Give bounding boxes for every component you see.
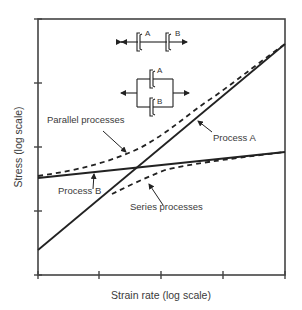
series-left-arrow-icon [121, 39, 127, 45]
x-axis-label: Strain rate (log scale) [111, 289, 211, 301]
series-icon-a-label: A [145, 29, 151, 38]
parallel-icon-a-label: A [157, 66, 163, 75]
process-a-label: Process A [213, 132, 256, 143]
parallel-dashpot-icon [121, 70, 189, 116]
parallel-left-arrow-icon [120, 90, 126, 96]
parallel-processes-label: Parallel processes [47, 114, 125, 125]
stress-strain-diagram: Parallel processes Process A Process B S… [0, 0, 302, 310]
process-a-arrow [198, 121, 212, 132]
parallel-arrow [103, 131, 126, 152]
series-processes-curve [112, 152, 285, 194]
process-b-line [38, 152, 285, 178]
y-axis-label: Stress (log scale) [12, 106, 24, 187]
series-icon-b-label: B [175, 29, 180, 38]
series-processes-label: Series processes [130, 201, 203, 212]
parallel-icon-b-label: B [157, 97, 162, 106]
process-b-label: Process B [58, 185, 101, 196]
